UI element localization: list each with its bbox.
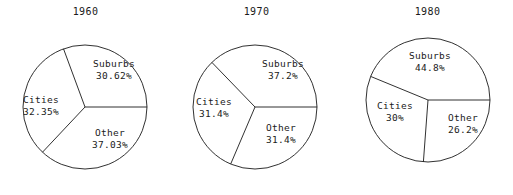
- slice-label-cities-1980: Cities 30%: [364, 100, 426, 124]
- slice-value-cities-1970: 31.4%: [183, 108, 245, 120]
- slice-name-other-1960: Other: [74, 127, 146, 139]
- slice-value-cities-1980: 30%: [364, 112, 426, 124]
- slice-label-cities-1970: Cities 31.4%: [183, 96, 245, 120]
- slice-label-suburbs-1960: Suburbs 30.62%: [78, 58, 150, 82]
- slice-value-other-1970: 31.4%: [247, 134, 315, 146]
- pie-chart-figure: 1960 Suburbs 30.62% Cities 32.35% Other …: [0, 0, 513, 195]
- slice-label-cities-1960: Cities 32.35%: [8, 94, 74, 118]
- slice-value-other-1980: 26.2%: [430, 124, 496, 136]
- slice-value-other-1960: 37.03%: [74, 139, 146, 151]
- slice-value-suburbs-1960: 30.62%: [78, 70, 150, 82]
- pie-chart-1970: 1970 Suburbs 37.2% Cities 31.4% Other 31…: [171, 0, 342, 195]
- slice-name-cities-1980: Cities: [364, 100, 426, 112]
- slice-name-other-1970: Other: [247, 122, 315, 134]
- slice-value-suburbs-1970: 37.2%: [247, 70, 319, 82]
- slice-label-suburbs-1970: Suburbs 37.2%: [247, 58, 319, 82]
- slice-name-suburbs-1960: Suburbs: [78, 58, 150, 70]
- slice-value-suburbs-1980: 44.8%: [394, 62, 466, 74]
- slice-label-other-1970: Other 31.4%: [247, 122, 315, 146]
- slice-label-other-1980: Other 26.2%: [430, 112, 496, 136]
- slice-name-cities-1970: Cities: [183, 96, 245, 108]
- slice-name-cities-1960: Cities: [8, 94, 74, 106]
- slice-label-suburbs-1980: Suburbs 44.8%: [394, 50, 466, 74]
- pie-graphic-1980: [342, 0, 513, 195]
- slice-label-other-1960: Other 37.03%: [74, 127, 146, 151]
- slice-divider-cities-suburbs-1980: [371, 76, 428, 100]
- slice-name-suburbs-1970: Suburbs: [247, 58, 319, 70]
- slice-name-suburbs-1980: Suburbs: [394, 50, 466, 62]
- pie-chart-1980: 1980 Suburbs 44.8% Cities 30% Other 26.2…: [342, 0, 513, 195]
- pie-chart-1960: 1960 Suburbs 30.62% Cities 32.35% Other …: [0, 0, 171, 195]
- slice-value-cities-1960: 32.35%: [8, 106, 74, 118]
- slice-name-other-1980: Other: [430, 112, 496, 124]
